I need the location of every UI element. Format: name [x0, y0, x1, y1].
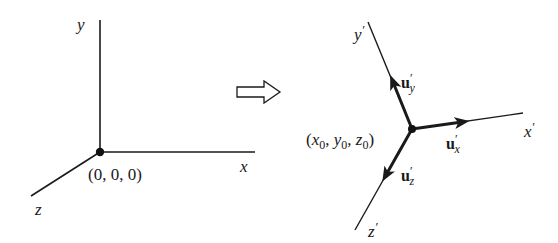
y-prime-label: y′	[352, 22, 365, 44]
z-prime-label: z′	[367, 219, 378, 241]
origin-dot	[96, 148, 104, 156]
origin-label: (0, 0, 0)	[88, 165, 142, 184]
u-prime-y-label: u′y	[401, 71, 416, 95]
u-prime-x-label: u′x	[446, 132, 461, 156]
transformed-origin-dot	[408, 125, 416, 133]
hollow-right-arrow-icon	[237, 81, 280, 103]
unit-vector-x	[412, 122, 462, 129]
y-axis-label: y	[75, 15, 85, 34]
z-axis-label: z	[34, 200, 42, 219]
x-prime-label: x′	[523, 119, 535, 141]
coordinate-transform-diagram: y x z (0, 0, 0) y′ x′ z′ u′y u′x	[0, 0, 558, 243]
x-axis-label: x	[239, 157, 248, 176]
left-frame: y x z (0, 0, 0)	[31, 15, 255, 219]
transformed-origin-label: (x0, y0, z0)	[306, 130, 374, 152]
u-prime-z-label: u′z	[401, 164, 415, 188]
right-frame: y′ x′ z′ u′y u′x u′z (x0, y0, z0)	[306, 22, 535, 241]
